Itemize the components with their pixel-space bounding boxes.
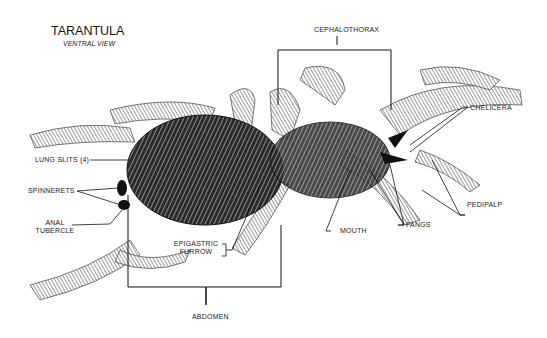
label-anal-tubercle-line1: ANAL [35, 219, 75, 226]
label-cephalothorax: CEPHALOTHORAX [314, 26, 379, 33]
label-mouth: MOUTH [340, 227, 367, 234]
label-anal-tubercle-line2: TUBERCLE [35, 227, 75, 234]
label-epigastric-line1: EPIGASTRIC [171, 240, 221, 247]
label-pedipalp: PEDIPALP [467, 201, 502, 208]
label-spinnerets: SPINNERETS [28, 187, 75, 194]
tarantula-illustration [0, 0, 547, 338]
label-fangs: FANGS [406, 221, 431, 228]
spinneret-upper [117, 180, 127, 196]
label-epigastric-furrow: EPIGASTRIC FURROW [171, 240, 221, 255]
cephalothorax-body [270, 122, 390, 198]
label-lung-slits: LUNG SLITS (4) [35, 156, 89, 163]
label-epigastric-line2: FURROW [171, 248, 221, 255]
label-anal-tubercle: ANAL TUBERCLE [35, 219, 75, 234]
abdomen-body [127, 115, 283, 225]
label-chelicera: CHELICERA [470, 104, 512, 111]
label-abdomen: ABDOMEN [192, 313, 229, 320]
